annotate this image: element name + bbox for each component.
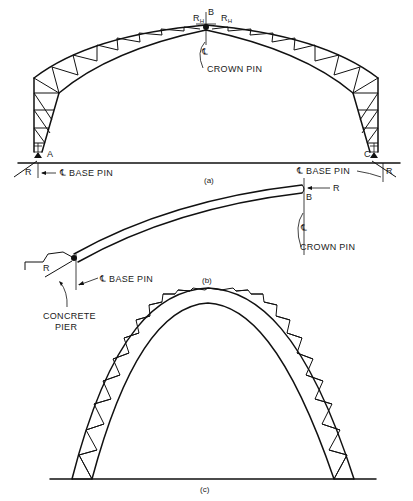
rh-left-label: RH <box>193 13 204 24</box>
crown-b-label: B <box>208 7 214 17</box>
rib-top <box>74 185 302 254</box>
arch-diagram: RH B RH ℄ CROWN PIN A C R ℄ BASE PIN R ℄… <box>0 0 413 501</box>
arch-inner-chord <box>92 303 334 479</box>
centerline-symbol-a: ℄ <box>201 47 208 57</box>
reaction-r-right-a: R <box>386 166 393 176</box>
centerline-symbol-b: ℄ <box>300 223 307 233</box>
base-pin-c <box>370 152 378 158</box>
point-a-label: A <box>47 149 53 159</box>
base-pin-label-b: ℄ BASE PIN <box>99 274 153 284</box>
concrete-pier-label-2: PIER <box>55 322 77 332</box>
crown-pin-label-b: CROWN PIN <box>300 242 355 252</box>
caption-a: (a) <box>204 176 214 185</box>
point-c-label: C <box>364 149 371 159</box>
rh-right-label: RH <box>221 13 232 24</box>
panel-c-parabolic-arch: (c) <box>50 288 376 494</box>
crown-b-label-b: B <box>306 192 312 202</box>
caption-b: (b) <box>202 276 212 285</box>
reaction-r-crown-b: R <box>333 183 340 193</box>
caption-c: (c) <box>200 485 210 494</box>
base-pin-a <box>34 152 42 158</box>
rib-bottom <box>78 193 302 262</box>
panel-b-arch-rib: R B ℄ CROWN PIN R ℄ BASE PIN CONCRETE PI… <box>25 178 355 332</box>
concrete-pier-label-1: CONCRETE <box>43 311 96 321</box>
crown-pin-label-a: CROWN PIN <box>207 64 262 74</box>
reaction-r-base-b: R <box>43 263 50 273</box>
reaction-r-left-a: R <box>25 167 32 177</box>
base-pin-label-left-a: ℄ BASE PIN <box>59 168 113 178</box>
arch-outer-chord <box>72 288 354 479</box>
panel-a-truss-arch: RH B RH ℄ CROWN PIN A C R ℄ BASE PIN R ℄… <box>14 7 400 185</box>
base-pin-label-right-a: ℄ BASE PIN <box>296 166 350 176</box>
